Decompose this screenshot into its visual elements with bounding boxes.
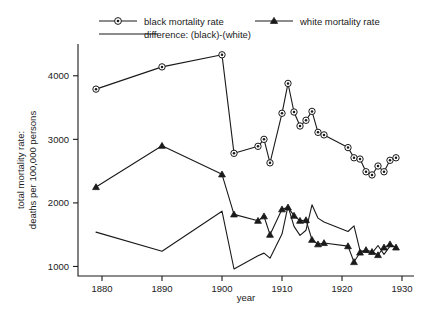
data-point-marker: [309, 236, 316, 242]
series-difference-black-white: [96, 205, 396, 269]
data-point-center: [359, 158, 362, 161]
data-point-center: [233, 152, 236, 155]
data-point-center: [395, 157, 398, 160]
data-point-center: [311, 110, 314, 113]
data-point-center: [287, 82, 290, 85]
x-tick-label: 1890: [151, 283, 172, 294]
data-point-marker: [351, 259, 358, 265]
data-point-center: [95, 88, 98, 91]
legend-marker-dot-black: [117, 20, 120, 23]
x-tick-label: 1910: [271, 283, 292, 294]
data-point-center: [353, 157, 356, 160]
y-tick-label: 1000: [48, 261, 69, 272]
data-point-center: [263, 138, 266, 141]
y-tick-label: 3000: [48, 134, 69, 145]
y-tick-label: 4000: [48, 70, 69, 81]
data-point-center: [323, 134, 326, 137]
data-point-center: [371, 174, 374, 177]
data-point-center: [305, 119, 308, 122]
data-point-marker: [261, 213, 268, 219]
data-point-center: [377, 165, 380, 168]
legend-marker-triangle-white: [270, 17, 277, 23]
series-line: [96, 205, 396, 269]
y-axis-title-line2: deaths per 100,000 persons: [27, 111, 38, 230]
legend-label-white: white mortality rate: [299, 16, 380, 27]
data-point-center: [281, 112, 284, 115]
x-axis-title: year: [237, 292, 255, 303]
data-point-marker: [159, 142, 166, 148]
x-tick-label: 1880: [91, 283, 112, 294]
data-point-marker: [321, 240, 328, 246]
series-black-mortality-rate: [93, 52, 399, 179]
x-tick-label: 1900: [211, 283, 232, 294]
data-point-center: [257, 145, 260, 148]
y-axis-title-line1: total mortality rate:: [15, 131, 26, 209]
data-point-center: [293, 111, 296, 114]
x-tick-label: 1920: [331, 283, 352, 294]
y-tick-label: 2000: [48, 197, 69, 208]
data-point-marker: [231, 211, 238, 217]
data-point-center: [383, 171, 386, 174]
data-point-marker: [219, 171, 226, 177]
chart-canvas: black mortality rate white mortality rat…: [0, 0, 432, 314]
data-point-center: [347, 146, 350, 149]
data-point-marker: [267, 231, 274, 237]
mortality-rate-chart-figure: black mortality rate white mortality rat…: [0, 0, 432, 314]
data-point-marker: [93, 184, 100, 190]
y-axis-title: total mortality rate: deaths per 100,000…: [15, 111, 38, 230]
x-tick-label: 1930: [391, 283, 412, 294]
y-axis-ticks: 1000200030004000: [48, 70, 78, 272]
data-point-center: [317, 131, 320, 134]
data-point-center: [299, 125, 302, 128]
data-point-center: [269, 162, 272, 165]
data-point-center: [221, 54, 224, 57]
data-point-center: [389, 159, 392, 162]
data-point-center: [161, 66, 164, 69]
data-point-center: [365, 171, 368, 174]
chart-legend: black mortality rate white mortality rat…: [99, 16, 380, 40]
legend-label-difference: difference: (black)-(white): [144, 29, 251, 40]
legend-label-black: black mortality rate: [144, 16, 224, 27]
chart-series-group: [93, 52, 400, 269]
